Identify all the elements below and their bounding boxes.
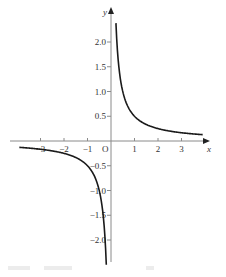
y-tick-label: 1.0 [95,87,107,97]
y-axis-arrow-icon [108,7,114,14]
y-tick-label: 2.0 [95,37,107,47]
chart: xyO −3−2−11232.01.51.00.5−0.5−1.0−1.5−2.… [0,0,226,277]
figure-caption-placeholder [8,266,218,271]
y-tick-label: −0.5 [90,161,107,171]
y-tick-label: 1.5 [95,62,107,72]
y-axis-label: y [102,7,107,17]
origin-label: O [102,144,109,154]
x-axis-label: x [206,144,211,154]
y-tick-label: 0.5 [95,111,107,121]
axes: xyO [10,7,211,262]
x-tick-label: 2 [156,144,161,154]
x-tick-label: 1 [132,144,137,154]
x-tick-label: 3 [179,144,184,154]
y-tick-label: −2.0 [90,235,107,245]
curve-positive-branch [116,23,203,135]
x-tick-label: −1 [83,144,93,154]
